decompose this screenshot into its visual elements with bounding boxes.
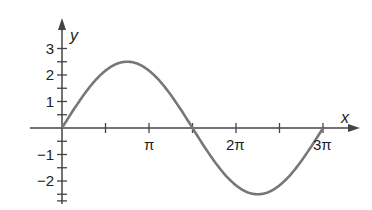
y-axis-label: y [70, 28, 78, 44]
x-axis-arrow-icon [348, 124, 360, 132]
y-tick-label: 2 [46, 67, 54, 82]
y-tick-label: −2 [37, 173, 54, 188]
x-tick-label: 2π [226, 137, 245, 152]
y-tick-label: 1 [46, 94, 54, 109]
y-tick-label: 3 [46, 41, 54, 56]
y-tick-label: −1 [37, 147, 54, 162]
x-tick-label: π [144, 137, 154, 152]
sine-chart [0, 0, 372, 210]
x-axis-label: x [341, 110, 349, 126]
x-tick-label: 3π [313, 137, 332, 152]
y-axis-arrow-icon [58, 18, 66, 30]
